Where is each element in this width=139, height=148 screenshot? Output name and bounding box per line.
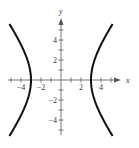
hyperbola-plot: −4−224 42−2−4 x y [0, 0, 139, 148]
y-axis-label: y [58, 7, 63, 16]
y-axis-arrow-icon [59, 18, 64, 25]
x-tick-label: −2 [37, 83, 46, 92]
y-tick-label: 2 [53, 56, 57, 65]
x-axis-label: x [125, 76, 130, 85]
x-tick-label: 2 [79, 83, 83, 92]
y-tick-label: −2 [48, 96, 57, 105]
x-tick-label: 4 [99, 83, 103, 92]
y-tick-label: 4 [53, 36, 57, 45]
y-tick-label: −4 [48, 116, 57, 125]
x-tick-label: −4 [17, 83, 26, 92]
x-axis-arrow-icon [114, 78, 121, 83]
